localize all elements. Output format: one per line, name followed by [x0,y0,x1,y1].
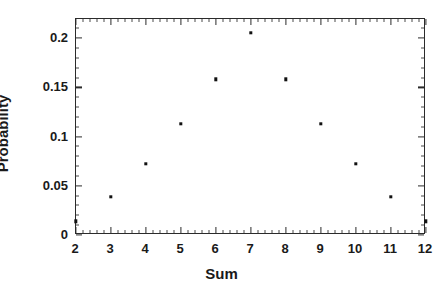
x-axis-minor-tick [265,230,266,233]
x-axis-tick-top [215,19,216,25]
x-axis-minor-tick [195,230,196,233]
x-axis-minor-tick [384,230,385,233]
x-axis-minor-tick-top [230,19,231,22]
x-axis-tick [390,227,391,233]
x-axis-minor-tick-top [125,19,126,22]
x-axis-minor-tick [174,230,175,233]
x-axis-minor-tick [349,230,350,233]
y-axis-minor-tick-right [421,146,424,147]
x-axis-title: Sum [0,266,443,281]
x-axis-minor-tick-top [209,19,210,22]
x-axis-minor-tick [279,230,280,233]
x-axis-minor-tick [342,230,343,233]
x-axis-minor-tick [132,230,133,233]
x-axis-minor-tick [209,230,210,233]
x-axis-minor-tick-top [377,19,378,22]
x-axis-tick-top [425,19,426,25]
x-axis-tick-top [390,19,391,25]
x-axis-tick-top [75,19,76,25]
x-axis-minor-tick [307,230,308,233]
y-tick-label: 0.2 [20,31,68,44]
x-axis-minor-tick [202,230,203,233]
x-axis-minor-tick [419,230,420,233]
x-axis-tick [320,227,321,233]
y-axis-tick [76,234,82,235]
y-axis-minor-tick-right [421,67,424,68]
x-axis-tick-top [180,19,181,25]
y-axis-minor-tick [76,116,79,117]
data-point [144,162,147,165]
x-axis-minor-tick [244,230,245,233]
x-axis-minor-tick [314,230,315,233]
x-axis-minor-tick [188,230,189,233]
x-axis-minor-tick-top [412,19,413,22]
x-axis-minor-tick [300,230,301,233]
x-axis-tick [355,227,356,233]
x-axis-minor-tick-top [405,19,406,22]
x-axis-minor-tick-top [419,19,420,22]
x-axis-minor-tick-top [384,19,385,22]
x-axis-minor-tick-top [118,19,119,22]
data-point [389,195,392,198]
x-axis-tick-top [145,19,146,25]
y-axis-minor-tick [76,215,79,216]
x-axis-minor-tick [370,230,371,233]
x-axis-minor-tick-top [97,19,98,22]
x-tick-label: 3 [106,242,113,255]
x-axis-minor-tick-top [335,19,336,22]
data-point [214,78,217,81]
y-axis-minor-tick [76,28,79,29]
x-axis-minor-tick-top [328,19,329,22]
y-axis-minor-tick-right [421,156,424,157]
x-axis-tick [145,227,146,233]
x-axis-minor-tick-top [160,19,161,22]
x-axis-minor-tick [90,230,91,233]
x-axis-minor-tick-top [265,19,266,22]
x-axis-tick-top [285,19,286,25]
x-axis-minor-tick [237,230,238,233]
x-tick-label: 12 [418,242,432,255]
x-axis-minor-tick-top [90,19,91,22]
y-axis-minor-tick [76,97,79,98]
x-tick-label: 11 [383,242,397,255]
data-point [179,122,182,125]
y-axis-minor-tick [76,146,79,147]
x-axis-minor-tick-top [83,19,84,22]
x-axis-minor-tick [293,230,294,233]
x-axis-minor-tick-top [342,19,343,22]
y-axis-minor-tick [76,156,79,157]
x-axis-tick [425,227,426,233]
x-axis-tick [285,227,286,233]
y-axis-minor-tick-right [421,175,424,176]
x-axis-minor-tick-top [167,19,168,22]
x-axis-minor-tick-top [153,19,154,22]
y-axis-minor-tick-right [421,195,424,196]
x-axis-minor-tick-top [370,19,371,22]
data-point [74,220,77,223]
x-axis-minor-tick-top [223,19,224,22]
x-tick-label: 4 [141,242,148,255]
x-axis-tick [215,227,216,233]
x-axis-minor-tick [335,230,336,233]
y-tick-label: 0.15 [20,80,68,93]
plot-frame [75,18,425,234]
y-axis-tick-right [418,136,424,137]
x-axis-minor-tick [118,230,119,233]
x-axis-minor-tick-top [202,19,203,22]
y-axis-tick [76,87,82,88]
x-axis-minor-tick [97,230,98,233]
plot-area [76,19,424,233]
x-axis-minor-tick [377,230,378,233]
x-tick-label: 5 [176,242,183,255]
x-axis-minor-tick [167,230,168,233]
data-point [424,220,427,223]
x-axis-minor-tick [160,230,161,233]
x-axis-minor-tick-top [363,19,364,22]
x-axis-minor-tick-top [314,19,315,22]
x-axis-minor-tick-top [398,19,399,22]
y-axis-tick-right [418,38,424,39]
x-axis-minor-tick-top [104,19,105,22]
y-axis-minor-tick [76,48,79,49]
y-axis-minor-tick-right [421,97,424,98]
x-axis-minor-tick-top [272,19,273,22]
